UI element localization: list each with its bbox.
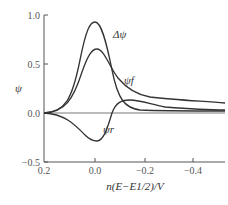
x-tick-neg0.4: −0.4	[184, 165, 202, 176]
label-psi-f: ψf	[124, 74, 136, 86]
y-tick-0: 0.0	[28, 108, 41, 119]
chart: 1.0 0.5 0.0 −0.5 ψ 0.2 0.0 −0.2 −0.4 n(E…	[0, 0, 228, 205]
x-tick-neg0.2: −0.2	[136, 165, 154, 176]
series-psi-r	[44, 100, 225, 141]
series-psi-f	[44, 49, 225, 113]
x-axis-label: n(E−E1/2)/V	[106, 180, 165, 193]
y-tick-1: 1.0	[28, 10, 41, 21]
y-axis: 1.0 0.5 0.0 −0.5 ψ	[15, 10, 48, 168]
x-tick-0.2: 0.2	[38, 165, 51, 176]
x-tick-0: 0.0	[89, 165, 102, 176]
label-psi-r: ψr	[103, 123, 115, 135]
y-tick-0.5: 0.5	[28, 59, 41, 70]
x-axis: 0.2 0.0 −0.2 −0.4 n(E−E1/2)/V	[38, 158, 225, 193]
label-delta-psi: Δψ	[112, 28, 126, 40]
series-delta-psi	[44, 22, 225, 113]
y-axis-label: ψ	[15, 82, 22, 94]
